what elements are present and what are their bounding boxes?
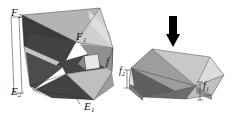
facet-inner-notch-highlight bbox=[84, 54, 100, 70]
figure-illustration bbox=[0, 0, 245, 127]
right-polyhedron bbox=[124, 49, 224, 101]
label-E1: E1 bbox=[84, 101, 94, 112]
measure-rule-F2-E2 bbox=[19, 17, 22, 93]
label-F1: F1 bbox=[76, 31, 86, 42]
figure-root: F2 F1 E2 E1 f f2 f1 bbox=[0, 0, 245, 127]
label-E2: E2 bbox=[11, 86, 21, 97]
label-F2: F2 bbox=[11, 7, 21, 18]
label-f1: f1 bbox=[203, 81, 209, 91]
measure-rule-outer bbox=[11, 17, 14, 93]
left-polyhedron bbox=[11, 8, 114, 104]
label-edge-f: f bbox=[106, 57, 109, 67]
label-f2: f2 bbox=[119, 66, 125, 76]
compression-arrow-icon bbox=[166, 16, 180, 47]
